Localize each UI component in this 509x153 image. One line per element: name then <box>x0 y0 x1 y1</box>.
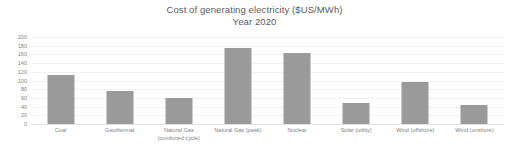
x-axis-labels: CoalGeothermalNatural Gas(combined cycle… <box>31 127 504 153</box>
bar-nuclear[interactable] <box>284 53 311 124</box>
y-tick-label: 120 <box>0 69 27 75</box>
bar-wind-onshore[interactable] <box>461 105 488 124</box>
bar-slot <box>268 37 327 124</box>
bar-slot <box>445 37 504 124</box>
x-axis-label: Geothermal <box>90 127 149 135</box>
x-axis-label: Nuclear <box>268 127 327 135</box>
bar-slot <box>90 37 149 124</box>
bar-natural-gas-peak[interactable] <box>224 48 251 124</box>
y-tick-label: 200 <box>0 34 27 40</box>
bar-slot <box>31 37 90 124</box>
y-tick-label: 140 <box>0 60 27 66</box>
gridline-0 <box>31 124 504 125</box>
bar-slot <box>386 37 445 124</box>
bar-coal[interactable] <box>47 75 74 124</box>
y-tick-label: 60 <box>0 95 27 101</box>
x-axis-label: Wind (onshore) <box>445 127 504 135</box>
x-axis-label: Wind (offshore) <box>386 127 445 135</box>
bar-geothermal[interactable] <box>106 91 133 124</box>
y-axis: 200180160140120100806040200 <box>0 33 27 128</box>
bar-slot <box>149 37 208 124</box>
bar-wind-offshore[interactable] <box>402 82 429 124</box>
y-tick-label: 80 <box>0 86 27 92</box>
bar-natural-gas-combined-cycle[interactable] <box>165 98 192 124</box>
y-tick-label: 0 <box>0 121 27 127</box>
y-tick-label: 160 <box>0 51 27 57</box>
bar-solar-utility[interactable] <box>343 103 370 124</box>
chart-title-block: Cost of generating electricity ($US/MWh)… <box>0 4 509 28</box>
y-tick-label: 40 <box>0 104 27 110</box>
chart-title: Cost of generating electricity ($US/MWh) <box>0 4 509 16</box>
y-tick-label: 20 <box>0 112 27 118</box>
chart-subtitle: Year 2020 <box>0 16 509 28</box>
chart-container: Cost of generating electricity ($US/MWh)… <box>0 0 509 153</box>
y-tick-label: 180 <box>0 43 27 49</box>
bar-slot <box>208 37 267 124</box>
x-axis-label: Natural Gas (peak) <box>208 127 267 135</box>
x-axis-label: Coal <box>31 127 90 135</box>
x-axis-label: Solar (utility) <box>327 127 386 135</box>
y-tick-label: 100 <box>0 78 27 84</box>
x-axis-label: Natural Gas(combined cycle) <box>149 127 208 142</box>
bar-slot <box>327 37 386 124</box>
bars-layer <box>31 37 504 124</box>
